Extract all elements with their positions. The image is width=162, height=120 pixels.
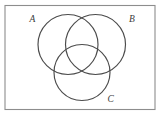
venn-circle-a: [38, 15, 98, 75]
venn-diagram-figure: A B C: [0, 0, 162, 120]
set-label-c: C: [108, 94, 115, 104]
venn-circle-b: [66, 15, 126, 75]
set-label-b: B: [129, 14, 135, 24]
set-label-a: A: [29, 14, 36, 24]
venn-diagram-canvas: A B C: [0, 0, 162, 120]
venn-circle-c: [54, 45, 110, 101]
